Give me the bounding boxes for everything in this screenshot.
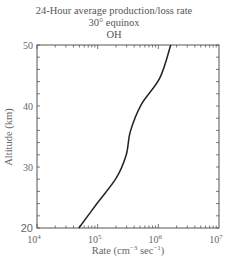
- y-tick-label: 40: [23, 101, 33, 112]
- x-tick-label: 105: [88, 233, 102, 245]
- plot-area: 10410510610720304050 Rate (cm−3 sec−1) A…: [0, 0, 228, 267]
- y-tick-label: 20: [21, 222, 33, 234]
- y-tick-label: 30: [23, 162, 33, 173]
- oh-rate-curve: [79, 45, 171, 228]
- axes-frame: 10410510610720304050: [21, 40, 224, 245]
- x-axis-title: Rate (cm−3 sec−1): [92, 244, 165, 257]
- y-tick-label: 50: [23, 40, 33, 51]
- x-tick-label: 104: [27, 233, 41, 245]
- y-axis-title: Altitude (km): [3, 108, 15, 166]
- x-tick-label: 107: [209, 233, 223, 245]
